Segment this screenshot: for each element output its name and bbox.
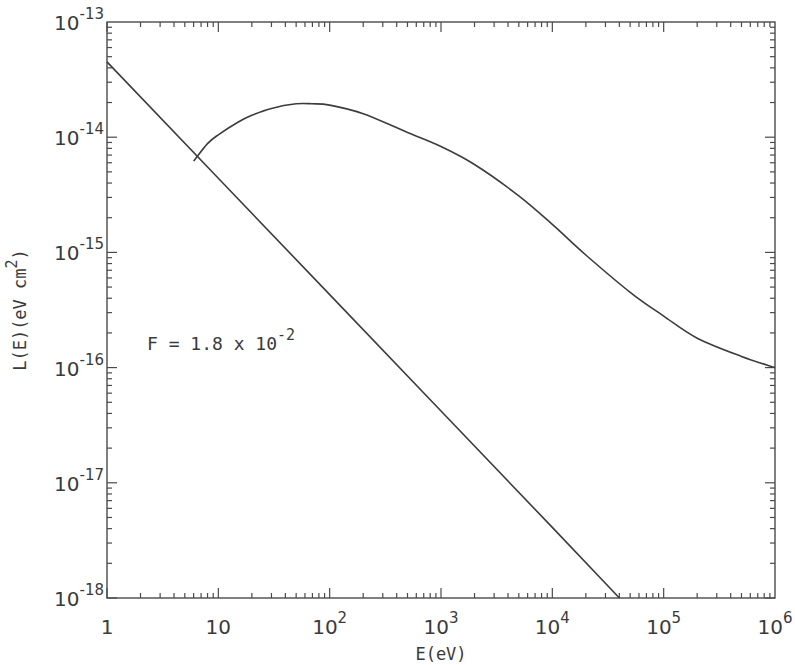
y-axis-label-sup: 2 — [3, 259, 21, 268]
series-group — [107, 62, 775, 598]
y-tick-label-exponent: -15 — [80, 235, 105, 253]
y-tick-label-base: 10 — [54, 587, 79, 611]
y-tick-label: 10-17 — [54, 466, 104, 496]
plot-frame-rect — [107, 22, 775, 598]
x-tick-label-exponent: 3 — [449, 609, 459, 627]
series-power-law-line — [107, 62, 619, 598]
x-tick-label: 102 — [312, 609, 347, 639]
x-tick-label-exponent: 2 — [338, 609, 348, 627]
x-tick-label: 10 — [206, 615, 231, 639]
y-tick-label-exponent: -13 — [80, 5, 105, 23]
x-tick-label-exponent: 4 — [560, 609, 570, 627]
x-tick-label: 106 — [758, 609, 793, 639]
svg-text:L(E)(eV cm2): L(E)(eV cm2) — [3, 249, 30, 371]
annotation-f-value: F = 1.8 x 10-2 — [147, 326, 295, 354]
y-tick-label: 10-15 — [54, 235, 104, 265]
y-tick-label-exponent: -18 — [80, 581, 105, 599]
y-axis-label-close: ) — [10, 249, 30, 259]
plot-frame — [107, 22, 775, 598]
x-tick-label-base: 10 — [424, 615, 449, 639]
x-tick-label-base: 10 — [312, 615, 337, 639]
y-tick-label-exponent: -16 — [80, 351, 105, 369]
tick-labels: 11010210310410510610-1310-1410-1510-1610… — [54, 5, 792, 639]
x-tick-label: 1 — [101, 615, 114, 639]
x-tick-label: 105 — [646, 609, 681, 639]
y-tick-label: 10-18 — [54, 581, 104, 611]
x-axis-label: E(eV) — [415, 644, 466, 664]
y-axis-label: L(E)(eV cm2) — [3, 249, 30, 371]
x-tick-label: 104 — [535, 609, 570, 639]
log-log-chart: 11010210310410510610-1310-1410-1510-1610… — [0, 0, 795, 665]
y-tick-label-base: 10 — [54, 357, 79, 381]
axis-ticks — [107, 22, 775, 598]
x-tick-label-base: 1 — [101, 615, 114, 639]
x-tick-label-base: 10 — [758, 615, 783, 639]
y-tick-label-base: 10 — [54, 241, 79, 265]
x-tick-label-base: 10 — [646, 615, 671, 639]
y-tick-label-exponent: -14 — [80, 120, 105, 138]
x-tick-label-base: 10 — [206, 615, 231, 639]
annotation-sup: -2 — [277, 326, 295, 344]
annotation-text: F = 1.8 x 10 — [147, 333, 277, 354]
x-tick-label: 103 — [424, 609, 459, 639]
y-tick-label-exponent: -17 — [80, 466, 105, 484]
y-axis-label-main: L(E)(eV cm — [10, 268, 30, 370]
x-tick-label-exponent: 6 — [783, 609, 793, 627]
y-tick-label: 10-14 — [54, 120, 104, 150]
y-tick-label-base: 10 — [54, 11, 79, 35]
y-tick-label: 10-16 — [54, 351, 104, 381]
y-tick-label-base: 10 — [54, 126, 79, 150]
x-tick-label-base: 10 — [535, 615, 560, 639]
y-tick-label: 10-13 — [54, 5, 104, 35]
y-tick-label-base: 10 — [54, 472, 79, 496]
x-tick-label-exponent: 5 — [672, 609, 682, 627]
